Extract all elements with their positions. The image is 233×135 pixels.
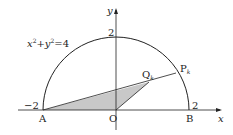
point-pk-label: Pk — [180, 64, 190, 75]
x-axis-arrow-icon — [216, 108, 222, 112]
y-axis-label: y — [107, 6, 113, 16]
tick-x-neg2: −2 — [24, 101, 39, 111]
tick-y-2: 2 — [108, 28, 114, 38]
point-o-label: O — [109, 114, 117, 124]
y-axis-arrow-icon — [114, 8, 118, 14]
point-a-label: A — [39, 114, 46, 124]
tick-x-2: 2 — [192, 101, 198, 111]
point-b-label: B — [186, 114, 193, 124]
point-qk-label: Qk — [142, 70, 154, 81]
x-axis-label: x — [218, 114, 224, 124]
circle-equation-label: x2+y2=4 — [27, 38, 69, 49]
